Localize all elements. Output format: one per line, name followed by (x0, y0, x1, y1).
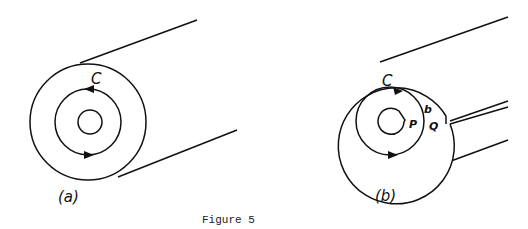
cylinder-top-edge (80, 20, 197, 63)
panel-label-a: (a) (58, 188, 79, 206)
point-label-q: Q (429, 120, 438, 133)
slit-edge-lower (450, 107, 508, 124)
figure-canvas: C (a) C P b Q (b) Figure 5 (0, 0, 528, 229)
panel-a (30, 20, 237, 180)
point-label-p: P (409, 118, 417, 131)
cylinder-top-edge (380, 17, 508, 62)
outer-circle (30, 64, 146, 180)
slit-edge-upper (450, 101, 508, 121)
contour-label-b: C (382, 72, 393, 90)
contour-label-a: C (91, 70, 102, 88)
slit-label-b: b (424, 103, 432, 116)
panel-label-b: (b) (375, 187, 396, 205)
figure-caption: Figure 5 (202, 214, 255, 226)
outer-circle-slit (338, 88, 454, 204)
